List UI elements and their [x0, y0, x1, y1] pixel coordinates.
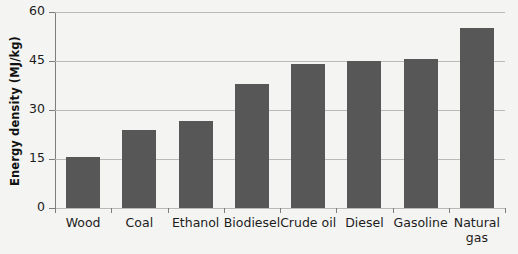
x-axis-tick-label: Gasoline — [393, 216, 449, 231]
y-axis-tick-label: 45 — [1, 54, 45, 67]
y-axis-tick-mark — [49, 159, 55, 160]
y-axis-tick-group: 015304560 — [0, 0, 49, 254]
x-axis-tick-label: Diesel — [336, 216, 392, 231]
x-axis-tick-mark — [336, 208, 337, 213]
bar — [66, 157, 100, 208]
y-axis-tick-label: 30 — [1, 103, 45, 116]
x-axis-tick-mark — [280, 208, 281, 213]
y-axis-tick-mark — [49, 12, 55, 13]
x-axis-tick-mark — [393, 208, 394, 213]
energy-density-bar-chart: Energy density (MJ/kg) 015304560 WoodCoa… — [0, 0, 518, 254]
x-axis-tick-label: Coal — [111, 216, 167, 231]
x-axis-tick-mark — [505, 208, 506, 213]
x-axis-tick-mark — [449, 208, 450, 213]
x-axis-tick-label: Ethanol — [168, 216, 224, 231]
y-axis-tick-label: 15 — [1, 152, 45, 165]
x-axis-tick-mark — [224, 208, 225, 213]
x-axis-tick-label: Biodiesel — [224, 216, 280, 231]
bar — [404, 59, 438, 208]
y-axis-tick-mark — [49, 61, 55, 62]
bar — [460, 28, 494, 208]
x-axis-tick-label: Wood — [55, 216, 111, 231]
bar — [235, 84, 269, 208]
bar — [347, 61, 381, 208]
bar — [122, 130, 156, 208]
x-axis-tick-mark — [55, 208, 56, 213]
x-axis-tick-label: Crude oil — [280, 216, 336, 231]
bar — [291, 64, 325, 208]
x-axis-tick-mark — [168, 208, 169, 213]
x-axis-tick-label: Natural gas — [449, 216, 505, 246]
gridline — [55, 12, 505, 13]
y-axis-tick-label: 0 — [1, 201, 45, 214]
y-axis-tick-mark — [49, 110, 55, 111]
bar — [179, 121, 213, 208]
plot-area — [55, 12, 505, 208]
x-axis-tick-mark — [111, 208, 112, 213]
y-axis-tick-label: 60 — [1, 5, 45, 18]
